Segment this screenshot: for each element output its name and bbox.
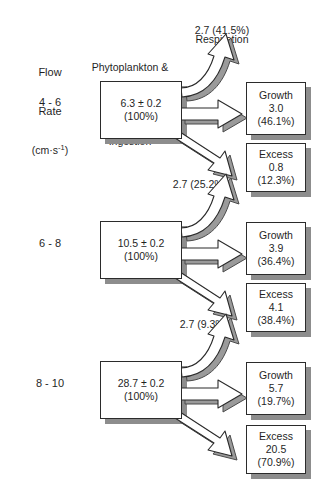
growth-box-2: Growth 3.9 (36.4%) — [246, 222, 306, 275]
growth-box-1: Growth 3.0 (46.1%) — [246, 82, 306, 135]
growth-value-3: 5.7 — [269, 382, 284, 395]
growth-label-3: Growth — [259, 369, 293, 382]
excess-value-3: 20.5 — [266, 443, 286, 456]
excess-box-3: Excess 20.5 (70.9%) — [246, 425, 306, 474]
excess-percent-1: (12.3%) — [258, 174, 295, 187]
ingestion-box-1: 6.3 ± 0.2 (100%) — [100, 81, 182, 139]
arrow-group-panel-3 — [175, 314, 247, 460]
ingestion-percent-2: (100%) — [124, 250, 158, 263]
energy-budget-diagram: Flow Rate (cm·s-1) 4 - 6 6 - 8 8 - 10 Ph… — [0, 0, 326, 503]
growth-label-1: Growth — [259, 89, 293, 102]
excess-value-1: 0.8 — [269, 161, 284, 174]
excess-box-1: Excess 0.8 (12.3%) — [246, 143, 306, 192]
excess-label-2: Excess — [259, 288, 293, 301]
excess-percent-2: (38.4%) — [258, 314, 295, 327]
growth-percent-1: (46.1%) — [258, 115, 295, 128]
growth-label-2: Growth — [259, 229, 293, 242]
growth-box-3: Growth 5.7 (19.7%) — [246, 362, 306, 415]
excess-percent-3: (70.9%) — [258, 456, 295, 469]
ingestion-value-3: 28.7 ± 0.2 — [118, 377, 165, 390]
ingestion-percent-3: (100%) — [124, 390, 158, 403]
ingestion-percent-1: (100%) — [124, 110, 158, 123]
ingestion-value-1: 6.3 ± 0.2 — [121, 97, 162, 110]
excess-label-3: Excess — [259, 430, 293, 443]
growth-value-2: 3.9 — [269, 242, 284, 255]
growth-value-1: 3.0 — [269, 102, 284, 115]
arrow-group-panel-2 — [175, 174, 247, 320]
excess-value-2: 4.1 — [269, 301, 284, 314]
excess-label-1: Excess — [259, 148, 293, 161]
growth-percent-3: (19.7%) — [258, 395, 295, 408]
ingestion-value-2: 10.5 ± 0.2 — [118, 237, 165, 250]
excess-box-2: Excess 4.1 (38.4%) — [246, 283, 306, 332]
arrow-group-panel-1 — [175, 34, 247, 180]
ingestion-box-3: 28.7 ± 0.2 (100%) — [100, 361, 182, 419]
ingestion-box-2: 10.5 ± 0.2 (100%) — [100, 221, 182, 279]
growth-percent-2: (36.4%) — [258, 255, 295, 268]
